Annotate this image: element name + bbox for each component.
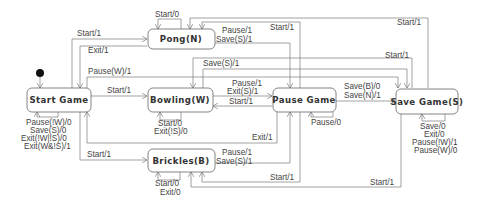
label-pong-to-pause-2: Save(S)/1 (216, 35, 253, 44)
label-start-self-4: Exit(W&!S)/1 (24, 142, 71, 151)
label-brickles-self-2: Exit/0 (160, 188, 181, 197)
label-pause-to-start: Exit/1 (252, 133, 273, 142)
state-brickles[interactable]: Brickles(B) (148, 149, 215, 172)
label-pause-to-bowling: Start/1 (229, 97, 254, 106)
label-start-to-brickles: Start/1 (87, 150, 112, 159)
edge-pause-to-brickles (202, 112, 300, 182)
label-bowling-to-save: Save(S)/1 (203, 59, 240, 68)
label-pause-self: Pause/0 (311, 118, 341, 127)
label-save-to-brickles: Start/1 (370, 178, 395, 187)
state-start-game-label: Start Game (29, 95, 88, 105)
edge-start-self (37, 112, 58, 117)
label-brickles-to-pause-1: Pause/1 (222, 148, 252, 157)
label-save-self-4: Pause(W)/0 (414, 146, 458, 155)
label-bowling-to-pause-2: Exit(S)/1 (227, 87, 259, 96)
label-save-to-pong: Start/1 (397, 18, 422, 27)
edge-pause-self (311, 112, 333, 117)
state-pause-game[interactable]: Pause Game (272, 88, 336, 112)
state-pong[interactable]: Pong(N) (148, 29, 215, 49)
label-bowling-self-2: Exit(!S)/0 (154, 127, 188, 136)
initial-state-dot (36, 69, 44, 77)
label-pause-to-pong: Start/1 (270, 23, 295, 32)
state-bowling-label: Bowling(W) (150, 95, 210, 105)
label-pause-to-save-2: Save(N)/1 (344, 91, 381, 100)
state-diagram: Start/1 Exit/1 Pause(W)/1 Start/1 Start/… (0, 0, 483, 202)
edge-save-self (422, 114, 445, 121)
label-pong-self: Start/0 (155, 10, 180, 19)
state-save-game-label: Save Game(S) (391, 97, 464, 107)
label-brickles-to-pause-2: Save(S)/1 (216, 157, 253, 166)
state-start-game[interactable]: Start Game (27, 88, 91, 112)
label-start-to-save: Pause(W)/1 (88, 67, 132, 76)
label-pong-to-start: Exit/1 (88, 46, 109, 55)
edge-pong-self (158, 19, 181, 29)
state-brickles-label: Brickles(B) (152, 156, 209, 166)
state-bowling[interactable]: Bowling(W) (148, 88, 213, 112)
state-save-game[interactable]: Save Game(S) (391, 89, 464, 114)
state-pause-game-label: Pause Game (272, 95, 336, 105)
label-brickles-self-1: Start/0 (155, 179, 180, 188)
state-pong-label: Pong(N) (160, 34, 202, 44)
label-pause-to-brickles: Start/1 (270, 173, 295, 182)
label-save-to-bowling: Start/1 (385, 51, 410, 60)
label-pong-to-pause-1: Pause/1 (222, 26, 252, 35)
label-pause-to-save-1: Save(B)/0 (344, 82, 381, 91)
label-start-to-pong: Start/1 (77, 29, 102, 38)
label-start-to-bowling: Start/1 (107, 86, 132, 95)
